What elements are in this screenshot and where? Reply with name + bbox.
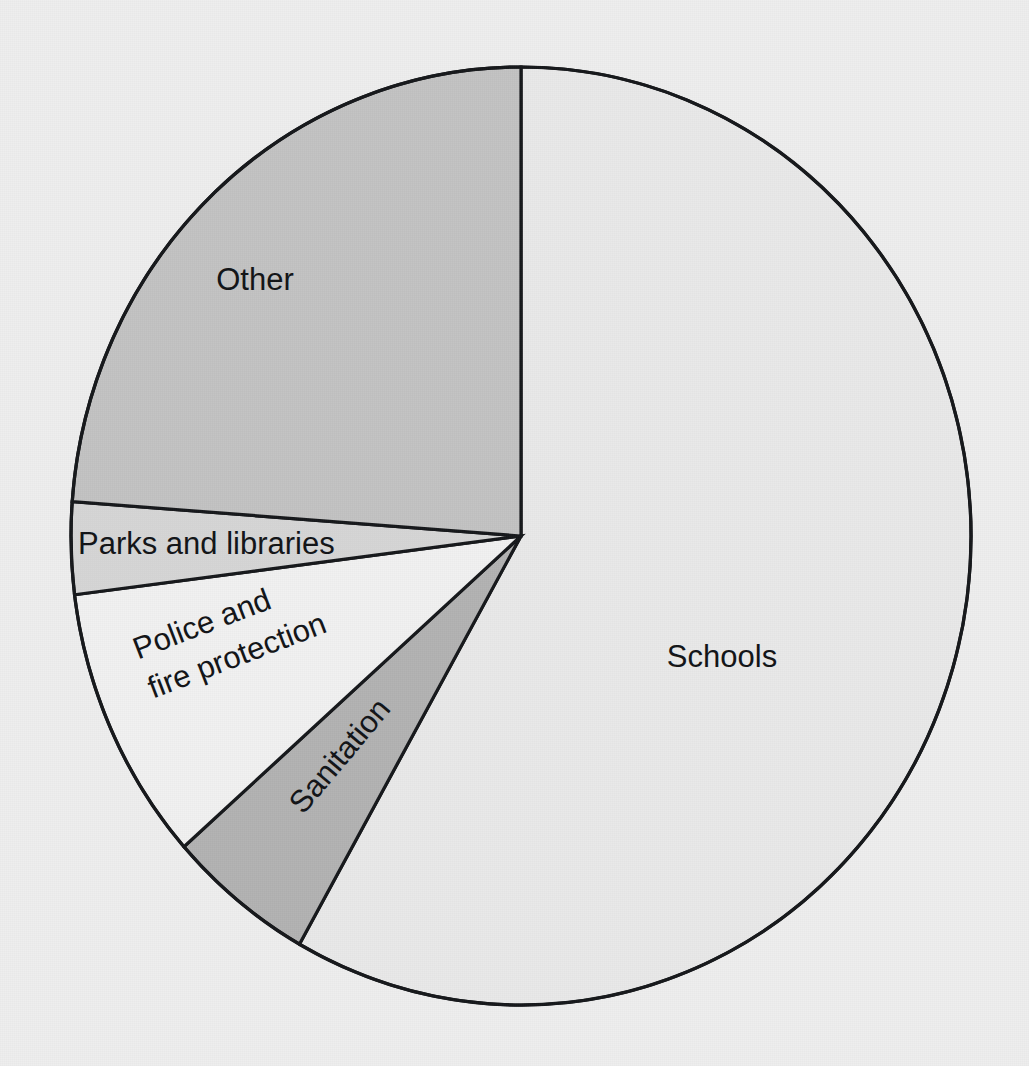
pie-slice-other[interactable] [72,67,521,536]
pie-label-parks-and-libraries: Parks and libraries [78,526,335,561]
pie-chart-canvas: Other Schools Parks and libraries Police… [0,0,1029,1066]
pie-label-schools: Schools [667,639,777,674]
pie-label-other: Other [216,262,294,297]
pie-chart-figure: Other Schools Parks and libraries Police… [0,0,1029,1066]
